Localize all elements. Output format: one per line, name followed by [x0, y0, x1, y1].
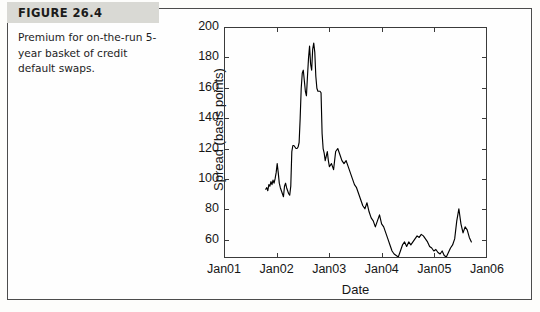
y-axis-tick-label: 160 — [180, 80, 219, 94]
chart-container: Spread (basis points) 608010012014016018… — [180, 10, 530, 300]
plot-area — [224, 27, 487, 258]
y-axis-tick-label: 60 — [180, 232, 219, 246]
figure-number-label: FIGURE 26.4 — [18, 6, 102, 20]
y-axis-tick-label: 100 — [180, 171, 219, 185]
x-axis-tick-label: Jan05 — [417, 262, 451, 276]
y-axis-tick-label: 140 — [180, 110, 219, 124]
y-axis-tick-label: 120 — [180, 141, 219, 155]
x-axis-tick-label: Jan01 — [207, 262, 241, 276]
x-axis-tick-label: Jan04 — [365, 262, 399, 276]
y-axis-tick-label: 180 — [180, 49, 219, 63]
x-axis-tick-label: Jan06 — [470, 262, 504, 276]
x-axis-title: Date — [224, 282, 487, 297]
y-axis-tick-label: 200 — [180, 19, 219, 33]
x-axis-tick-label: Jan02 — [260, 262, 294, 276]
figure-caption-text: Premium for on-the-run 5-year basket of … — [18, 30, 168, 77]
x-axis-tick-label: Jan03 — [312, 262, 346, 276]
y-axis-tick-label: 80 — [180, 201, 219, 215]
figure-page: FIGURE 26.4 Premium for on-the-run 5-yea… — [0, 0, 540, 312]
spread-line-series — [225, 28, 486, 257]
